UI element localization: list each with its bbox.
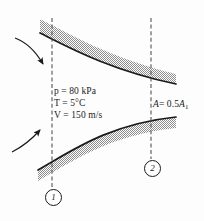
- upper-inlet-arrow: [15, 38, 43, 64]
- upper-wall-shading: [40, 19, 176, 84]
- duct-flow-figure: p = 80 kPa T = 5°C V = 150 m/s A= 0.5A1 …: [0, 0, 204, 221]
- station-2-marker: 2: [144, 160, 161, 177]
- exit-area-ref-subscript: 1: [185, 103, 189, 111]
- inlet-velocity-label: V = 150 m/s: [54, 109, 102, 121]
- inlet-pressure-label: p = 80 kPa: [54, 85, 102, 97]
- exit-area-block: A= 0.5A1: [153, 98, 189, 113]
- station-1-marker: 1: [45, 189, 62, 206]
- station-1-label: 1: [51, 192, 56, 202]
- inlet-temperature-label: T = 5°C: [54, 97, 102, 109]
- inlet-conditions-block: p = 80 kPa T = 5°C V = 150 m/s: [54, 85, 102, 121]
- lower-inlet-arrow: [12, 130, 40, 152]
- station-2-label: 2: [150, 163, 155, 173]
- upper-duct-wall: [40, 19, 176, 84]
- exit-area-value: = 0.5: [159, 99, 179, 109]
